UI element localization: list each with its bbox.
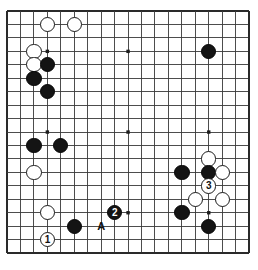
go-board-grid xyxy=(0,0,258,270)
go-stone-white xyxy=(188,192,203,207)
go-stone-black xyxy=(174,165,189,180)
stone-move-number: 1 xyxy=(41,233,54,246)
go-stone-black xyxy=(26,71,41,86)
go-stone-white-1: 1 xyxy=(40,232,55,247)
go-stone-white-3: 3 xyxy=(201,178,216,193)
go-diagram: 321 A xyxy=(0,0,258,270)
go-stone-black xyxy=(26,138,41,153)
go-stone-white xyxy=(40,17,55,32)
go-stone-white xyxy=(215,192,230,207)
stone-move-number: 3 xyxy=(202,179,215,192)
board-marker-a: A xyxy=(95,220,107,232)
go-stone-white xyxy=(26,165,41,180)
go-stone-black-2: 2 xyxy=(107,205,122,220)
go-stone-white xyxy=(215,165,230,180)
go-stone-black xyxy=(174,205,189,220)
go-stone-black xyxy=(67,219,82,234)
stone-move-number: 2 xyxy=(108,206,121,219)
go-stone-white xyxy=(67,17,82,32)
